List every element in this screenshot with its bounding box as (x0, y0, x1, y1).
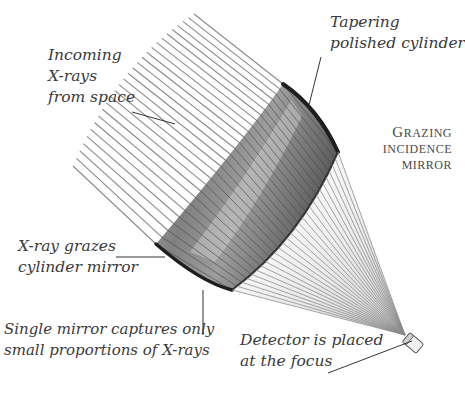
label-line: X-ray grazes (18, 236, 138, 257)
label-detector: Detector is placed at the focus (240, 330, 383, 372)
label-x-ray-grazes: X-ray grazes cylinder mirror (18, 236, 138, 278)
label-line: cylinder mirror (18, 257, 138, 278)
heading-line-2: INCIDENCE (383, 141, 452, 157)
label-line: Incoming (48, 45, 135, 66)
label-line: Single mirror captures only (4, 319, 214, 340)
label-incoming-x-rays: Incoming X-rays from space (48, 45, 135, 108)
heading-line-3: MIRROR (383, 157, 452, 173)
label-tapering-cylinder: Tapering polished cylinder (330, 12, 465, 54)
label-line: at the focus (240, 351, 383, 372)
label-line: from space (48, 87, 135, 108)
label-single-mirror: Single mirror captures only small propor… (4, 319, 214, 361)
diagram-heading: GRAZING INCIDENCE MIRROR (383, 124, 452, 173)
label-line: X-rays (48, 66, 135, 87)
label-line: small proportions of X-rays (4, 340, 214, 361)
heading-line-1: GRAZING (383, 124, 452, 141)
label-line: polished cylinder (330, 33, 465, 54)
label-line: Detector is placed (240, 330, 383, 351)
label-line: Tapering (330, 12, 465, 33)
